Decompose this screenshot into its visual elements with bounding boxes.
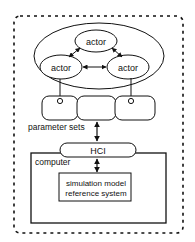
computer-label: computer: [35, 157, 71, 167]
actor-left-label: actor: [51, 63, 71, 73]
parameter-sets: [42, 96, 155, 120]
actor-left: actor: [40, 55, 82, 79]
parameter-set-3: [115, 96, 155, 120]
simulation-model-label-line1: simulation model: [66, 179, 126, 188]
hci-label: HCI: [90, 146, 106, 156]
actor-right-label: actor: [118, 63, 138, 73]
actor-top-label: actor: [86, 37, 106, 47]
port-right: [128, 98, 133, 103]
parameter-sets-label: parameter sets: [28, 122, 85, 132]
parameter-set-2: [77, 96, 116, 120]
arrow-top-right: [112, 48, 122, 57]
port-left: [57, 98, 62, 103]
simulation-model-label-line2: reference system: [65, 189, 127, 198]
arrow-top-left: [69, 48, 80, 57]
actor-top: actor: [75, 30, 117, 52]
diagram-canvas: actor actor actor parameter sets compute…: [0, 0, 195, 242]
actor-right: actor: [107, 55, 149, 79]
